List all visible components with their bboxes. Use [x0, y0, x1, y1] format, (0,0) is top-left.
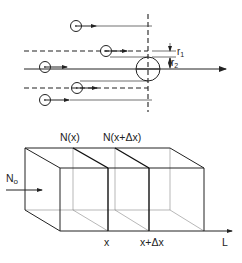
- label-r1: r1: [177, 46, 184, 58]
- label-axis-l: L: [222, 236, 228, 248]
- slice-x-plus-dx: [115, 148, 149, 231]
- box-outer-edges: [25, 148, 204, 231]
- slab-panel: N(x) N(x+Δx) No x x+Δx L: [6, 131, 232, 248]
- label-x: x: [104, 236, 110, 248]
- incoming-particle: [40, 95, 70, 106]
- label-x-plus-dx: x+Δx: [140, 236, 164, 248]
- label-r2: r2: [171, 57, 178, 69]
- label-n-zero: No: [6, 172, 19, 186]
- slice-x: [73, 148, 108, 231]
- box-back-edges: [25, 148, 204, 231]
- cross-section-panel: r1 r2: [24, 14, 226, 112]
- collision-diagram: r1 r2: [0, 0, 242, 263]
- label-n-of-x: N(x): [60, 131, 80, 143]
- incoming-particle: [71, 21, 97, 32]
- incoming-particle: [40, 62, 68, 73]
- label-n-of-x-plus-dx: N(x+Δx): [103, 131, 141, 143]
